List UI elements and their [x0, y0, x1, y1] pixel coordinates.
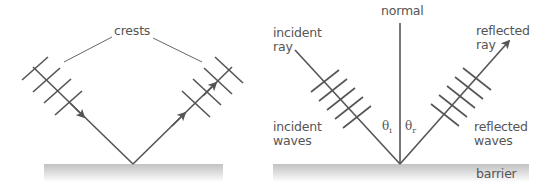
label-incident-ray: incident ray [273, 26, 322, 54]
label-reflected-waves-line1: reflected [474, 120, 528, 134]
label-reflected-waves-line2: waves [474, 134, 528, 148]
label-normal: normal [381, 4, 424, 18]
label-crests: crests [114, 24, 150, 38]
angle-reflection-label: θr [405, 119, 416, 135]
left-diagram [22, 37, 243, 182]
label-incident-ray-line1: incident [273, 26, 322, 40]
crests-leader-right [153, 38, 202, 62]
label-reflected-ray-line1: reflected [476, 24, 530, 38]
label-barrier: barrier [476, 167, 517, 181]
theta-r-subscript: r [412, 126, 416, 135]
label-incident-ray-line2: ray [273, 40, 322, 54]
label-incident-waves-line1: incident [273, 120, 322, 134]
crests-leader-left [64, 37, 112, 62]
left-reflected-arrow-1 [172, 113, 185, 126]
label-reflected-waves: reflected waves [474, 120, 528, 148]
angle-incidence-label: θi [382, 119, 392, 135]
label-reflected-ray-line2: ray [476, 38, 530, 52]
theta-i-subscript: i [389, 126, 392, 135]
label-reflected-ray: reflected ray [476, 24, 530, 52]
label-incident-waves-line2: waves [273, 134, 322, 148]
label-incident-waves: incident waves [273, 120, 322, 148]
left-barrier [44, 164, 223, 182]
left-incident-arrow [70, 103, 84, 117]
right-reflected-crests [431, 68, 491, 126]
